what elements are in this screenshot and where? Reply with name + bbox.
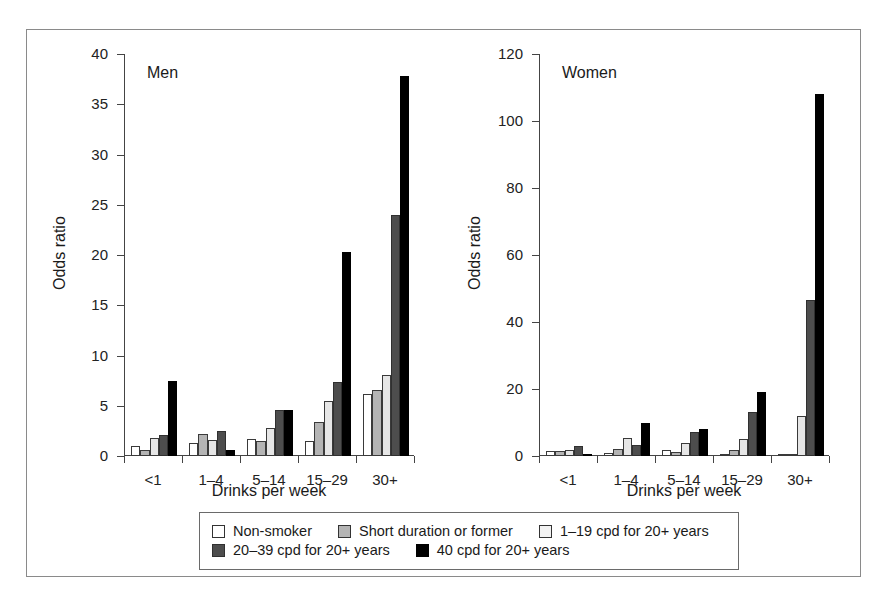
legend-label: 40 cpd for 20+ years (437, 542, 570, 558)
bar-men-3-1 (314, 422, 323, 456)
bar-women-4-3 (806, 300, 815, 456)
bar-women-2-1 (671, 452, 680, 456)
chart-panel-women: Women Odds ratio 020406080100120<11–45–1… (444, 30, 861, 500)
y-tick-label-women-20: 20 (506, 380, 523, 398)
bar-women-1-0 (604, 453, 613, 456)
bar-women-1-4 (641, 423, 650, 457)
bar-men-0-1 (140, 450, 149, 456)
y-tick-men-35: 35 (117, 104, 124, 105)
bar-men-1-3 (217, 431, 226, 456)
y-axis-label-men: Odds ratio (51, 216, 69, 290)
bar-group-bars (662, 54, 708, 456)
y-tick-label-women-60: 60 (506, 246, 523, 264)
bar-group-bars (305, 54, 351, 456)
bar-group-bars (778, 54, 824, 456)
legend-item-2-0: 20–39 cpd for 20+ years (212, 542, 390, 558)
bar-women-1-2 (623, 438, 632, 456)
legend-swatch-icon (338, 525, 351, 538)
bar-women-2-0 (662, 450, 671, 456)
bar-men-1-0 (189, 443, 198, 456)
bar-men-2-4 (284, 410, 293, 456)
y-tick-label-men-35: 35 (91, 95, 108, 113)
bar-women-3-0 (720, 454, 729, 456)
legend-swatch-icon (416, 544, 429, 557)
bar-men-4-0 (363, 394, 372, 456)
bar-women-3-4 (757, 392, 766, 456)
legend-label: Non-smoker (233, 523, 312, 539)
x-tick-women-0 (597, 456, 598, 463)
bar-group-women-4 (778, 54, 824, 456)
legend-item-2-1: 40 cpd for 20+ years (416, 542, 570, 558)
bar-men-0-2 (150, 438, 159, 456)
bar-group-men-0 (131, 54, 177, 456)
x-tick-men-4 (414, 456, 415, 463)
bar-men-2-3 (275, 410, 284, 456)
y-tick-label-men-0: 0 (100, 447, 108, 465)
bar-group-men-2 (247, 54, 293, 456)
y-axis-label-women: Odds ratio (466, 216, 484, 290)
bar-men-3-4 (342, 252, 351, 456)
x-tick-men-1 (240, 456, 241, 463)
chart-panel-men: Men Odds ratio 0510152025303540<11–45–14… (29, 30, 446, 500)
bar-women-0-2 (565, 450, 574, 456)
x-tick-men-2 (298, 456, 299, 463)
y-axis-line-women (539, 54, 540, 456)
y-tick-women-20: 20 (532, 389, 539, 390)
legend-label: Short duration or former (359, 523, 513, 539)
x-tick-women-4 (829, 456, 830, 463)
bar-men-3-2 (324, 401, 333, 456)
y-tick-women-100: 100 (532, 121, 539, 122)
y-tick-men-0: 0 (117, 456, 124, 457)
x-tick-women-1 (655, 456, 656, 463)
bar-group-bars (604, 54, 650, 456)
legend-item-1-0: Non-smoker (212, 523, 312, 539)
legend: Non-smokerShort duration or former1–19 c… (199, 512, 739, 570)
legend-item-1-1: Short duration or former (338, 523, 513, 539)
legend-swatch-icon (212, 544, 225, 557)
legend-swatch-icon (212, 525, 225, 538)
legend-item-1-2: 1–19 cpd for 20+ years (539, 523, 709, 539)
y-tick-label-women-120: 120 (498, 45, 523, 63)
x-tick-men-origin (124, 456, 125, 463)
legend-label: 20–39 cpd for 20+ years (233, 542, 390, 558)
x-axis-label-men: Drinks per week (124, 482, 414, 500)
bar-men-4-4 (400, 76, 409, 456)
legend-row-1: Non-smokerShort duration or former1–19 c… (212, 523, 726, 539)
bar-women-2-3 (690, 432, 699, 456)
bar-women-4-4 (815, 94, 824, 456)
y-tick-women-0: 0 (532, 456, 539, 457)
y-tick-men-25: 25 (117, 205, 124, 206)
bar-group-bars (546, 54, 592, 456)
bar-group-women-1 (604, 54, 650, 456)
y-tick-men-40: 40 (117, 54, 124, 55)
bar-men-0-3 (159, 435, 168, 456)
bar-men-4-2 (382, 375, 391, 456)
y-tick-women-120: 120 (532, 54, 539, 55)
x-tick-men-0 (182, 456, 183, 463)
legend-swatch-icon (539, 525, 552, 538)
bar-group-men-1 (189, 54, 235, 456)
bar-women-0-0 (546, 451, 555, 456)
y-tick-label-women-0: 0 (515, 447, 523, 465)
y-tick-label-men-40: 40 (91, 45, 108, 63)
plot-area-men: 0510152025303540<11–45–1415–2930+ (124, 54, 414, 456)
bar-group-women-3 (720, 54, 766, 456)
bar-men-4-3 (391, 215, 400, 456)
bar-men-3-3 (333, 382, 342, 456)
bar-women-1-3 (632, 445, 641, 456)
x-axis-label-women: Drinks per week (539, 482, 829, 500)
bar-men-0-4 (168, 381, 177, 456)
bar-group-bars (363, 54, 409, 456)
bar-group-bars (720, 54, 766, 456)
y-tick-label-women-100: 100 (498, 112, 523, 130)
bar-women-0-1 (555, 451, 564, 456)
bar-men-1-4 (226, 450, 235, 456)
y-tick-women-80: 80 (532, 188, 539, 189)
bar-group-men-4 (363, 54, 409, 456)
bar-group-women-2 (662, 54, 708, 456)
y-tick-men-10: 10 (117, 356, 124, 357)
y-tick-women-40: 40 (532, 322, 539, 323)
bar-men-1-1 (198, 434, 207, 456)
bar-women-4-1 (787, 454, 796, 456)
x-tick-women-3 (771, 456, 772, 463)
